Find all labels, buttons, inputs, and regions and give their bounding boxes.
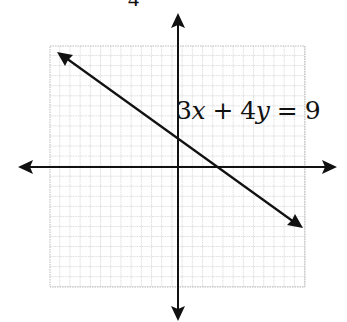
- var-x: x: [191, 96, 205, 125]
- coordinate-plane: [0, 0, 347, 322]
- var-y: y: [256, 96, 270, 125]
- coef-x: 3: [176, 96, 191, 125]
- op-plus: +: [205, 96, 240, 125]
- rhs: 9: [305, 96, 320, 125]
- cropped-text-fragment: 4: [128, 0, 139, 12]
- equation-label: 3x + 4y = 9: [176, 96, 320, 125]
- op-equals: =: [269, 96, 304, 125]
- coef-y: 4: [240, 96, 255, 125]
